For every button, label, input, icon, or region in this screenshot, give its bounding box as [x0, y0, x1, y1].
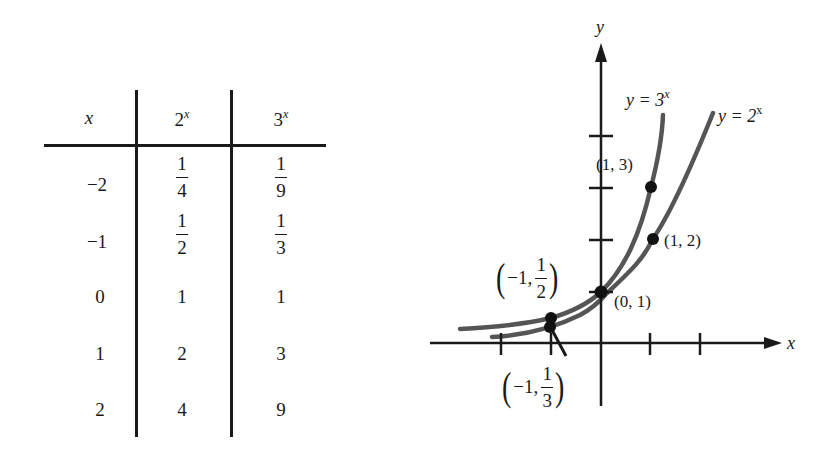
point-label-m1-third: ( −1, 13 ) [500, 364, 567, 410]
curve-label-3x: y = 3x [626, 88, 669, 109]
exponential-graph [0, 0, 836, 457]
x-axis-label: x [787, 334, 795, 352]
y-axis-arrow-icon [595, 43, 607, 62]
point-label-1-3: (1, 3) [596, 156, 633, 173]
x-axis-arrow-icon [764, 337, 782, 349]
curve-2x [492, 113, 713, 337]
point-1-3 [645, 181, 657, 193]
point-1-2 [647, 233, 659, 245]
point-0-1 [595, 286, 608, 299]
point-label-m1-half: ( −1, 12 ) [494, 255, 561, 301]
point-label-1-2: (1, 2) [664, 232, 701, 249]
y-axis-label: y [596, 18, 604, 36]
point-m1-third [544, 321, 556, 333]
curve-label-2x: y = 2x [718, 104, 762, 125]
point-label-0-1: (0, 1) [614, 293, 651, 310]
